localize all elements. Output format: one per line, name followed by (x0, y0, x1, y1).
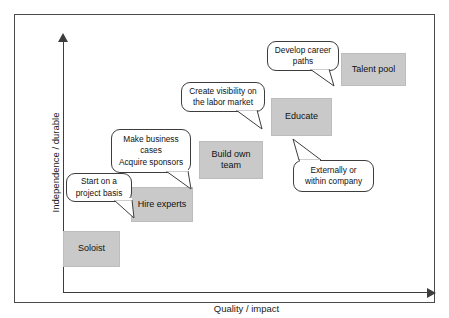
stage-label-talent-pool: Talent pool (352, 64, 396, 75)
stage-label-build-own-team: Build own team (211, 149, 250, 172)
stage-label-educate: Educate (285, 111, 318, 122)
stage-label-soloist: Soloist (78, 243, 105, 254)
callout-develop-career-paths[interactable]: Develop career paths (267, 41, 339, 71)
x-axis-arrow-icon (427, 288, 436, 298)
stage-box-educate[interactable]: Educate (271, 98, 332, 136)
callout-label-start-on-a-project-basis: Start on a project basis (76, 176, 123, 198)
x-axis-line (63, 292, 430, 293)
diagram-canvas: Independence / durable Quality / impact … (0, 0, 449, 318)
callout-label-create-visibility: Create visibility on the labor market (189, 86, 256, 108)
stage-box-soloist[interactable]: Soloist (63, 231, 120, 267)
callout-label-develop-career-paths: Develop career paths (275, 45, 331, 67)
stage-box-hire-experts[interactable]: Hire experts (131, 187, 193, 222)
y-axis-arrow-icon (58, 33, 68, 42)
callout-externally-or-within-company[interactable]: Externally or within company (293, 160, 374, 192)
callout-label-externally-or-within-company: Externally or within company (305, 165, 362, 187)
stage-box-build-own-team[interactable]: Build own team (199, 141, 263, 179)
callout-create-visibility[interactable]: Create visibility on the labor market (181, 82, 265, 112)
callout-start-on-a-project-basis[interactable]: Start on a project basis (66, 173, 132, 202)
stage-box-talent-pool[interactable]: Talent pool (341, 53, 406, 86)
x-axis-label: Quality / impact (63, 303, 430, 314)
stage-label-hire-experts: Hire experts (138, 199, 187, 210)
y-axis-label: Independence / durable (50, 63, 61, 263)
callout-make-business-cases[interactable]: Make business cases Acquire sponsors (111, 129, 191, 173)
diagram-frame: Independence / durable Quality / impact … (14, 14, 435, 303)
callout-label-make-business-cases: Make business cases Acquire sponsors (119, 134, 183, 168)
